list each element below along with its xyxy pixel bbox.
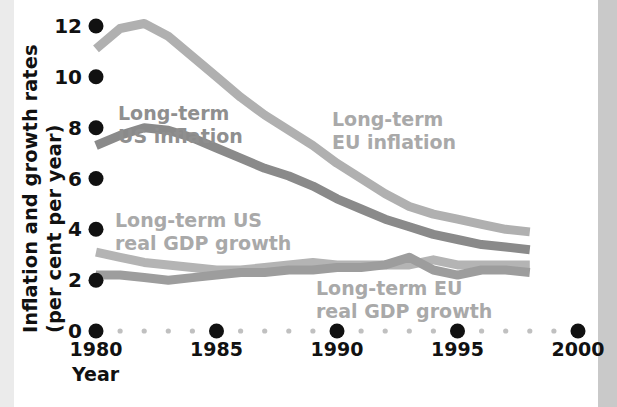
series-annotation-1: Long-term: [118, 102, 229, 124]
y-axis-label-line2: (per cent per year): [43, 125, 66, 334]
x-axis-minor-dot: [262, 328, 267, 333]
x-axis-minor-dot: [383, 328, 388, 333]
x-axis-minor-dot: [479, 328, 484, 333]
x-axis-label: Year: [71, 363, 120, 385]
x-axis-tick-label: 2000: [552, 338, 605, 360]
x-axis-tick-label: 1995: [431, 338, 484, 360]
x-axis-minor-dot: [431, 328, 436, 333]
x-axis-minor-dot: [407, 328, 412, 333]
y-axis-tick-dot: [89, 171, 104, 186]
x-axis-minor-dot: [551, 328, 556, 333]
x-axis-minor-dot: [527, 328, 532, 333]
x-axis-minor-dot: [190, 328, 195, 333]
y-axis-tick-dot: [89, 19, 104, 34]
x-axis-minor-dot: [359, 328, 364, 333]
y-axis-tick-label: 8: [68, 116, 82, 140]
x-axis-minor-dot: [238, 328, 243, 333]
x-axis-minor-dot: [286, 328, 291, 333]
x-axis-minor-dot: [142, 328, 147, 333]
x-axis-tick-label: 1985: [190, 338, 243, 360]
series-annotation-2: real GDP growth: [115, 232, 291, 254]
x-axis-minor-dot: [166, 328, 171, 333]
chart-figure: 024681012 19801985199019952000 Long-term…: [0, 0, 617, 407]
series-annotation-0: Long-term: [332, 108, 443, 130]
series-annotation-1: US inflation: [118, 125, 243, 147]
series-annotation-3: Long-term EU: [316, 277, 462, 299]
y-axis-label-line1: Inflation and growth rates: [19, 44, 42, 333]
axis-dots-layer: [89, 324, 586, 339]
chart-plot-area: 024681012 19801985199019952000 Long-term…: [0, 0, 617, 407]
x-axis-minor-dot: [503, 328, 508, 333]
x-axis-tick-label: 1980: [70, 338, 123, 360]
x-axis-minor-dot: [118, 328, 123, 333]
series-annotation-3: real GDP growth: [316, 300, 492, 322]
y-axis-tick-label: 10: [54, 65, 82, 89]
y-axis-tick-dot: [89, 120, 104, 135]
x-axis-tick-label: 1990: [311, 338, 364, 360]
x-axis-major-dot: [89, 324, 104, 339]
x-axis-ticks: 19801985199019952000: [70, 338, 605, 360]
series-annotation-2: Long-term US: [115, 209, 262, 231]
series-annotation-0: EU inflation: [332, 131, 456, 153]
x-axis-major-dot: [330, 324, 345, 339]
x-axis-major-dot: [209, 324, 224, 339]
y-axis-tick-label: 12: [54, 14, 82, 38]
x-axis-minor-dot: [310, 328, 315, 333]
y-axis-tick-dot: [89, 273, 104, 288]
y-axis-tick-label: 4: [68, 217, 82, 241]
y-axis-tick-label: 6: [68, 167, 82, 191]
y-axis-tick-label: 2: [68, 268, 82, 292]
x-axis-major-dot: [450, 324, 465, 339]
y-axis-tick-dot: [89, 222, 104, 237]
y-axis-tick-dot: [89, 69, 104, 84]
x-axis-major-dot: [571, 324, 586, 339]
